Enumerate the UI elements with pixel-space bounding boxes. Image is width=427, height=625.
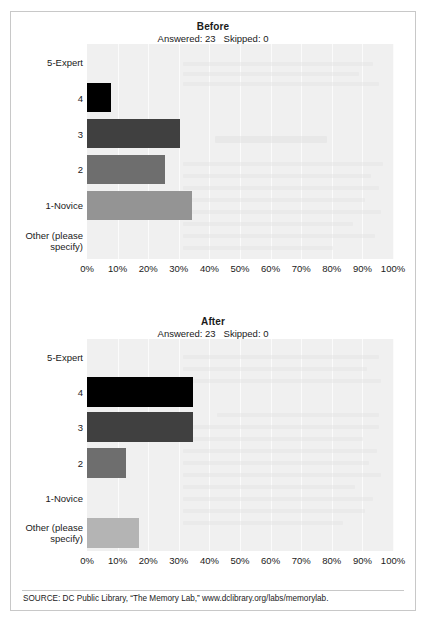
y-axis-tick-label: 1-Novice [11,200,83,211]
x-axis-tick-label: 60% [261,554,280,568]
x-axis-tick-label: 10% [108,262,127,276]
x-axis-tick-label: 60% [261,262,280,276]
y-axis-tick-label: 4 [11,387,83,398]
chart-title: Before [11,21,415,33]
x-axis-labels: 0%10%20%30%40%50%60%70%80%90%100% [87,262,393,278]
plot-area [87,339,393,551]
bar [87,412,193,442]
y-axis-tick-label: Other (please specify) [11,522,83,544]
y-axis-tick-label: 5-Expert [11,351,83,362]
x-axis-tick-label: 80% [322,554,341,568]
x-axis-tick-label: 0% [80,554,94,568]
x-axis-tick-label: 70% [292,262,311,276]
source-divider [22,590,404,591]
x-axis-tick-label: 100% [381,554,405,568]
bar-series [87,339,393,551]
x-axis-tick-label: 70% [292,554,311,568]
y-axis-tick-label: 4 [11,92,83,103]
bar [87,119,180,148]
chart-after: After Answered: 23 Skipped: 0 5-Expert43… [11,309,415,584]
x-axis-tick-label: 10% [108,554,127,568]
x-axis-tick-label: 40% [200,262,219,276]
gridline [393,44,394,259]
x-axis-tick-label: 40% [200,554,219,568]
x-axis-tick-label: 20% [139,262,158,276]
y-axis-tick-label: 2 [11,164,83,175]
x-axis-tick-label: 80% [322,262,341,276]
x-axis-tick-label: 50% [230,262,249,276]
x-axis-tick-label: 30% [169,554,188,568]
y-axis-tick-label: 2 [11,457,83,468]
y-axis-tick-label: 5-Expert [11,56,83,67]
y-axis-tick-label: Other (please specify) [11,230,83,252]
gridline [393,339,394,551]
chart-before: Before Answered: 23 Skipped: 0 5-Expert4… [11,14,415,307]
x-axis-labels: 0%10%20%30%40%50%60%70%80%90%100% [87,554,393,570]
y-axis-tick-label: 1-Novice [11,493,83,504]
y-axis-tick-label: 3 [11,128,83,139]
x-axis-tick-label: 90% [353,554,372,568]
source-note: SOURCE: DC Public Library, “The Memory L… [23,593,407,604]
x-axis-tick-label: 100% [381,262,405,276]
y-axis-tick-label: 3 [11,422,83,433]
bar [87,155,165,184]
bar [87,448,126,478]
plot-area [87,44,393,259]
x-axis-tick-label: 50% [230,554,249,568]
bar-series [87,44,393,259]
x-axis-tick-label: 20% [139,554,158,568]
x-axis-tick-label: 0% [80,262,94,276]
bar [87,518,139,548]
bar [87,83,111,112]
bar [87,191,192,220]
x-axis-tick-label: 30% [169,262,188,276]
bar [87,377,193,407]
x-axis-tick-label: 90% [353,262,372,276]
figure-panel: Before Answered: 23 Skipped: 0 5-Expert4… [10,11,416,611]
chart-title: After [11,316,415,328]
